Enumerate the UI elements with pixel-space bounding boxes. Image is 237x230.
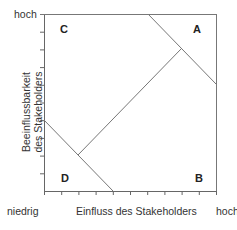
y-axis-title-line1: Beeinflussbarkeit [20, 71, 32, 152]
x-low-label: niedrig [7, 205, 39, 217]
quadrant-d-label: D [61, 172, 69, 184]
x-axis-title: Einfluss des Stakeholders [76, 205, 197, 217]
x-high-label: hoch [216, 205, 237, 217]
y-axis-title-line2: des Stakeholders [32, 71, 44, 152]
connector-line [78, 49, 181, 155]
quadrant-a-label: A [193, 23, 201, 35]
y-axis-title: Beeinflussbarkeit des Stakeholders [14, 62, 50, 162]
y-high-label: hoch [14, 8, 37, 20]
divider-a [148, 14, 216, 84]
quadrant-b-label: B [195, 172, 203, 184]
quadrant-c-label: C [60, 23, 68, 35]
divider-d [44, 120, 113, 191]
